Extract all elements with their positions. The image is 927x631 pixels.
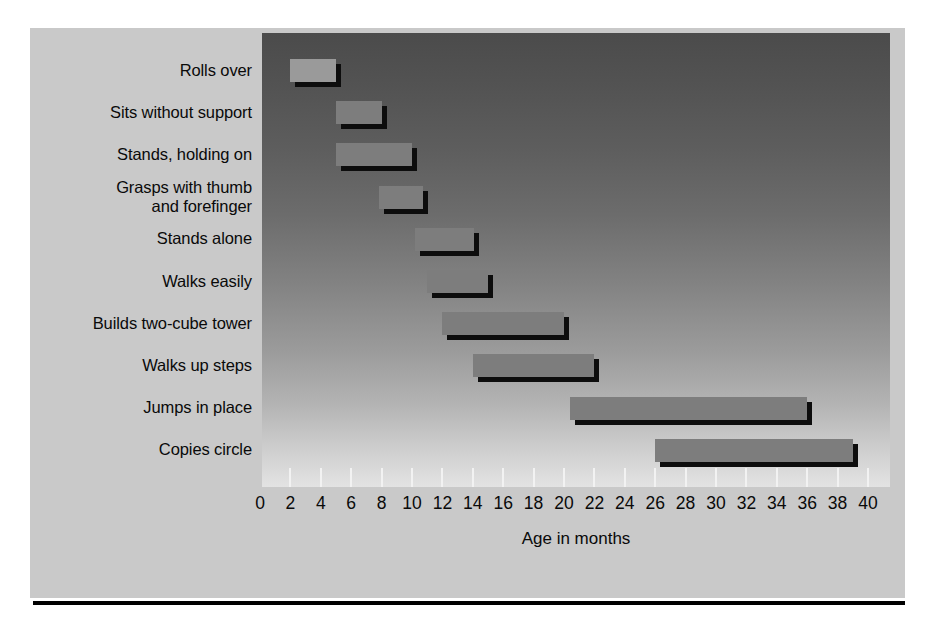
plot-area bbox=[262, 33, 890, 487]
tick-label-26: 26 bbox=[645, 492, 664, 514]
tick-mark-10 bbox=[411, 468, 413, 487]
tick-mark-40 bbox=[867, 468, 869, 487]
tick-mark-30 bbox=[715, 468, 717, 487]
tick-label-18: 18 bbox=[524, 492, 543, 514]
tick-mark-12 bbox=[441, 468, 443, 487]
tick-label-28: 28 bbox=[676, 492, 695, 514]
tick-mark-34 bbox=[776, 468, 778, 487]
tick-mark-38 bbox=[837, 468, 839, 487]
category-label-stands-holding-on: Stands, holding on bbox=[117, 145, 252, 164]
category-label-stands-alone: Stands alone bbox=[157, 229, 252, 248]
tick-label-24: 24 bbox=[615, 492, 634, 514]
x-axis-title: Age in months bbox=[262, 528, 890, 550]
tick-label-30: 30 bbox=[706, 492, 725, 514]
tick-label-0: 0 bbox=[255, 492, 265, 514]
tick-label-38: 38 bbox=[828, 492, 847, 514]
tick-label-20: 20 bbox=[554, 492, 573, 514]
tick-label-2: 2 bbox=[286, 492, 296, 514]
category-label-builds-two-cube-tower: Builds two-cube tower bbox=[93, 314, 252, 333]
bar-copies-circle bbox=[655, 439, 853, 462]
tick-label-4: 4 bbox=[316, 492, 326, 514]
tick-label-32: 32 bbox=[737, 492, 756, 514]
tick-mark-4 bbox=[320, 468, 322, 487]
tick-mark-20 bbox=[563, 468, 565, 487]
tick-mark-14 bbox=[472, 468, 474, 487]
tick-mark-24 bbox=[624, 468, 626, 487]
tick-mark-36 bbox=[806, 468, 808, 487]
category-label-walks-up-steps: Walks up steps bbox=[142, 356, 252, 375]
category-label-copies-circle: Copies circle bbox=[159, 440, 252, 459]
tick-label-36: 36 bbox=[797, 492, 816, 514]
x-axis-tick-labels: 0246810121416182022242628303234363840 bbox=[262, 492, 890, 518]
tick-label-10: 10 bbox=[402, 492, 421, 514]
tick-label-14: 14 bbox=[463, 492, 482, 514]
bar-walks-easily bbox=[427, 270, 488, 293]
bar-builds-two-cube-tower bbox=[442, 312, 564, 335]
tick-label-6: 6 bbox=[346, 492, 356, 514]
bar-stands-holding-on bbox=[336, 143, 412, 166]
category-label-jumps-in-place: Jumps in place bbox=[143, 398, 252, 417]
category-label-sits-without-support: Sits without support bbox=[110, 103, 252, 122]
tick-mark-2 bbox=[289, 468, 291, 487]
tick-mark-26 bbox=[654, 468, 656, 487]
tick-label-8: 8 bbox=[377, 492, 387, 514]
bar-rolls-over bbox=[290, 59, 336, 82]
tick-mark-22 bbox=[593, 468, 595, 487]
category-label-walks-easily: Walks easily bbox=[162, 272, 252, 291]
category-label-rolls-over: Rolls over bbox=[180, 61, 252, 80]
tick-mark-8 bbox=[381, 468, 383, 487]
tick-mark-28 bbox=[685, 468, 687, 487]
bottom-divider-rule bbox=[33, 601, 905, 605]
tick-label-16: 16 bbox=[493, 492, 512, 514]
bar-stands-alone bbox=[415, 228, 474, 251]
category-label-grasps-with-thumb-and-forefinger: Grasps with thumb and forefinger bbox=[116, 178, 252, 216]
tick-label-40: 40 bbox=[858, 492, 877, 514]
bar-sits-without-support bbox=[336, 101, 382, 124]
tick-label-12: 12 bbox=[433, 492, 452, 514]
chart-card: Rolls overSits without supportStands, ho… bbox=[30, 28, 905, 598]
tick-mark-32 bbox=[745, 468, 747, 487]
tick-label-34: 34 bbox=[767, 492, 786, 514]
bar-walks-up-steps bbox=[473, 354, 595, 377]
bar-jumps-in-place bbox=[570, 397, 807, 420]
tick-label-22: 22 bbox=[585, 492, 604, 514]
tick-mark-18 bbox=[533, 468, 535, 487]
tick-mark-6 bbox=[350, 468, 352, 487]
tick-mark-16 bbox=[502, 468, 504, 487]
category-label-column: Rolls overSits without supportStands, ho… bbox=[30, 33, 258, 487]
bar-grasps-with-thumb-and-forefinger bbox=[379, 186, 423, 209]
